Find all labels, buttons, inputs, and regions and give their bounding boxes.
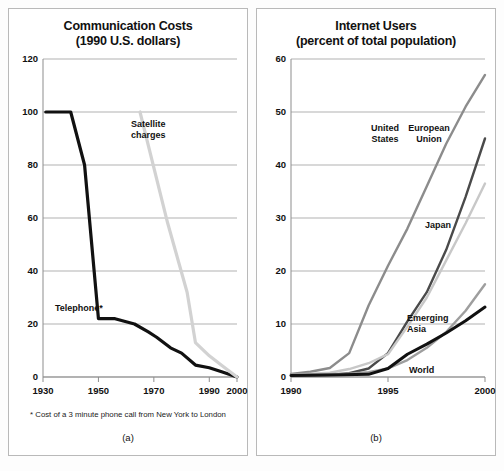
series-label-satellite: Satellite bbox=[131, 119, 166, 129]
x-tick-label: 1950 bbox=[88, 385, 109, 396]
figure-container: Communication Costs (1990 U.S. dollars) … bbox=[0, 0, 504, 471]
chart-panel-internet-users: Internet Users (percent of total populat… bbox=[256, 8, 496, 456]
panel-b-plot-area: 0102030405060199019952000UnitedStatesEur… bbox=[257, 53, 495, 413]
series-label-united-states: States bbox=[371, 134, 398, 144]
x-tick-label: 2000 bbox=[226, 385, 247, 396]
panel-b-caption: (b) bbox=[257, 432, 495, 443]
panel-b-title-line1: Internet Users bbox=[335, 19, 416, 33]
y-tick-label: 50 bbox=[275, 106, 286, 117]
x-tick-label: 1995 bbox=[377, 385, 399, 396]
y-tick-label: 20 bbox=[275, 265, 286, 276]
series-label-european-union: Union bbox=[416, 134, 442, 144]
y-tick-label: 40 bbox=[275, 159, 286, 170]
chart-panel-communication-costs: Communication Costs (1990 U.S. dollars) … bbox=[8, 8, 248, 456]
series-label-european-union: European bbox=[408, 123, 450, 133]
y-tick-label: 100 bbox=[22, 106, 38, 117]
panel-a-caption: (a) bbox=[9, 432, 247, 443]
y-tick-label: 120 bbox=[22, 53, 38, 64]
series-label-telephone: Telephone* bbox=[55, 303, 103, 313]
y-tick-label: 20 bbox=[27, 318, 38, 329]
series-label-emerging-asia: Asia bbox=[407, 324, 427, 334]
y-tick-label: 10 bbox=[275, 318, 286, 329]
series-line bbox=[291, 184, 485, 375]
panel-a-plot-area: 02040608010012019301950197019902000Satel… bbox=[9, 53, 247, 413]
y-tick-label: 60 bbox=[275, 53, 286, 64]
x-tick-label: 1930 bbox=[32, 385, 53, 396]
panel-b-title: Internet Users (percent of total populat… bbox=[257, 19, 495, 49]
y-tick-label: 60 bbox=[27, 212, 38, 223]
series-label-world: World bbox=[409, 365, 434, 375]
x-tick-label: 1990 bbox=[199, 385, 220, 396]
series-label-japan: Japan bbox=[425, 220, 451, 230]
panel-a-footnote: * Cost of a 3 minute phone call from New… bbox=[9, 410, 247, 419]
panel-a-title-line2: (1990 U.S. dollars) bbox=[9, 34, 247, 49]
y-tick-label: 30 bbox=[275, 212, 286, 223]
series-label-satellite: charges bbox=[131, 130, 166, 140]
y-tick-label: 80 bbox=[27, 159, 38, 170]
y-tick-label: 0 bbox=[281, 371, 286, 382]
series-line bbox=[46, 112, 237, 377]
series-label-united-states: United bbox=[371, 123, 399, 133]
series-line bbox=[291, 307, 485, 375]
x-tick-label: 2000 bbox=[474, 385, 495, 396]
panel-a-title-line1: Communication Costs bbox=[64, 19, 193, 33]
y-tick-label: 40 bbox=[27, 265, 38, 276]
series-label-emerging-asia: Emerging bbox=[407, 313, 449, 323]
panel-b-title-line2: (percent of total population) bbox=[257, 34, 495, 49]
x-tick-label: 1970 bbox=[143, 385, 164, 396]
communication-costs-svg: 02040608010012019301950197019902000Satel… bbox=[9, 53, 249, 413]
internet-users-svg: 0102030405060199019952000UnitedStatesEur… bbox=[257, 53, 497, 413]
x-tick-label: 1990 bbox=[280, 385, 301, 396]
y-tick-label: 0 bbox=[33, 371, 38, 382]
series-line bbox=[291, 284, 485, 375]
panel-a-title: Communication Costs (1990 U.S. dollars) bbox=[9, 19, 247, 49]
series-line bbox=[291, 139, 485, 376]
